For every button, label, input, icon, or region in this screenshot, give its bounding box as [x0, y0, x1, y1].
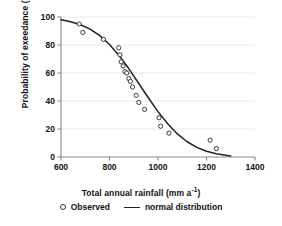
legend-item-normal-distribution: normal distribution [124, 202, 222, 212]
observed-data-point [157, 116, 161, 120]
x-tick-label: 800 [102, 162, 116, 172]
tick-marks-group [58, 17, 256, 161]
observed-data-point [208, 138, 212, 142]
axes-group [61, 17, 255, 157]
observed-data-point [130, 85, 134, 89]
legend-item-observed: Observed [60, 202, 110, 212]
y-tick-label: 0 [50, 152, 55, 162]
open-circle-icon [60, 204, 66, 210]
y-axis-title: Probability of exeedance (%) [14, 0, 32, 124]
observed-data-point [119, 60, 123, 64]
legend-label-normal-distribution: normal distribution [145, 202, 222, 212]
x-axis-title-main: Total annual rainfall (mm a [82, 188, 192, 198]
x-tick-label: 1200 [197, 162, 216, 172]
normal-distribution-curve [61, 20, 231, 156]
observed-data-point [125, 71, 129, 75]
y-tick-label: 100 [41, 12, 55, 22]
x-axis-title-text: Total annual rainfall (mm a-1) [82, 188, 201, 198]
x-axis-title-end: ) [197, 188, 200, 198]
observed-data-point [77, 22, 81, 26]
observed-data-point [214, 147, 218, 151]
observed-data-point [128, 79, 132, 83]
observed-data-point [134, 93, 138, 97]
normal-distribution-line [61, 20, 231, 156]
chart-legend: Observed normal distribution [0, 202, 282, 212]
observed-data-point [118, 53, 122, 57]
observed-data-point [167, 131, 171, 135]
observed-data-point [137, 100, 141, 104]
y-tick-label: 20 [46, 124, 56, 134]
observed-data-point [101, 37, 105, 41]
x-tick-label: 600 [54, 162, 68, 172]
x-tick-label: 1400 [246, 162, 265, 172]
legend-label-observed: Observed [71, 202, 110, 212]
observed-data-point [159, 124, 163, 128]
chart-figure: 020406080100600800100012001400 Probabili… [0, 0, 282, 226]
y-tick-label: 80 [46, 40, 56, 50]
y-axis-title-text: Probability of exeedance (%) [20, 0, 30, 108]
observed-data-points [77, 22, 218, 151]
y-tick-label: 40 [46, 96, 56, 106]
tick-labels-group: 020406080100600800100012001400 [41, 12, 265, 172]
x-tick-label: 1000 [149, 162, 168, 172]
line-swatch-icon [124, 207, 140, 208]
observed-data-point [143, 107, 147, 111]
y-tick-label: 60 [46, 68, 56, 78]
observed-data-point [121, 64, 125, 68]
observed-data-point [81, 30, 85, 34]
x-axis-title: Total annual rainfall (mm a-1) [0, 182, 282, 200]
observed-data-point [117, 46, 121, 50]
